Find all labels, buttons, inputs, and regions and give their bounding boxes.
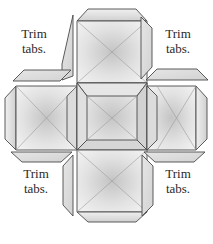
left-square <box>5 86 77 150</box>
top-square <box>77 9 147 83</box>
trim-tab-horizontal <box>144 152 205 162</box>
label-line1: Trim <box>14 166 58 181</box>
trim-tabs-label-bottom-left: Trim tabs. <box>14 166 58 196</box>
center-square <box>77 83 147 150</box>
label-line1: Trim <box>156 26 200 41</box>
trim-tab-vertical <box>63 155 73 216</box>
trim-tabs-bottom-left-vertical <box>63 155 73 216</box>
right-square <box>147 86 207 150</box>
label-line2: tabs. <box>14 181 58 196</box>
label-line2: tabs. <box>12 41 56 56</box>
trim-tabs-label-top-right: Trim tabs. <box>156 26 200 56</box>
label-line1: Trim <box>12 26 56 41</box>
trim-tabs-label-top-left: Trim tabs. <box>12 26 56 56</box>
trim-tab-horizontal <box>11 152 72 162</box>
bottom-square <box>77 150 147 222</box>
trim-tab-horizontal <box>146 69 208 80</box>
trim-tabs-bottom-left <box>11 152 72 162</box>
trim-tabs-label-bottom-right: Trim tabs. <box>156 166 200 196</box>
label-line2: tabs. <box>156 41 200 56</box>
label-line2: tabs. <box>156 181 200 196</box>
label-line1: Trim <box>156 166 200 181</box>
trim-tab-vertical <box>142 155 153 216</box>
trim-tab-vertical <box>141 17 152 79</box>
